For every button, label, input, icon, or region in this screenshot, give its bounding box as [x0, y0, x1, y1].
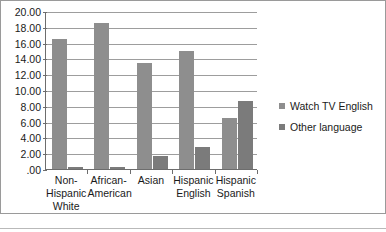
x-axis-tick — [257, 170, 258, 174]
x-axis-labels: Non- Hispanic WhiteAfrican- AmericanAsia… — [45, 174, 257, 214]
y-axis-tick-label: 12.00 — [15, 70, 41, 80]
bar-group — [88, 12, 130, 169]
bar-group — [131, 12, 173, 169]
bar — [179, 51, 194, 169]
x-axis-category-label: Asian — [130, 174, 172, 187]
bar — [110, 167, 125, 169]
legend-label: Watch TV English — [290, 101, 373, 112]
legend-item[interactable]: Watch TV English — [279, 100, 373, 112]
x-axis-category-label: Non- Hispanic White — [45, 174, 87, 213]
chart-screenshot: 20.0018.0016.0014.0012.0010.008.006.004.… — [0, 0, 386, 232]
bottom-divider — [0, 228, 386, 229]
y-axis-tick-label: 8.00 — [21, 102, 41, 112]
y-axis-tick-label: 16.00 — [15, 39, 41, 49]
y-axis-tick-label: 20.00 — [15, 7, 41, 17]
x-axis-tick — [130, 170, 131, 174]
legend-swatch-icon — [279, 103, 285, 109]
bar — [137, 63, 152, 169]
x-axis-category-label: Hispanic Spanish — [215, 174, 257, 200]
y-axis-tick-label: 18.00 — [15, 23, 41, 33]
x-axis-category-label: African- American — [87, 174, 129, 200]
legend-label: Other language — [290, 122, 362, 133]
y-axis-tick-label: 6.00 — [21, 118, 41, 128]
x-axis-tick — [215, 170, 216, 174]
legend-swatch-icon — [279, 124, 285, 130]
y-axis-tick — [43, 170, 47, 171]
bar — [52, 39, 67, 169]
y-axis-tick-label: 10.00 — [15, 86, 41, 96]
y-axis-labels: 20.0018.0016.0014.0012.0010.008.006.004.… — [0, 12, 41, 170]
plot-area — [45, 12, 257, 170]
x-axis-tick — [172, 170, 173, 174]
y-axis-tick-label: 4.00 — [21, 133, 41, 143]
chart-legend: Watch TV EnglishOther language — [279, 100, 373, 142]
y-axis-tick-label: .00 — [26, 165, 41, 175]
bar — [238, 101, 253, 169]
bar — [195, 147, 210, 169]
x-axis-tick — [87, 170, 88, 174]
bar-group — [216, 12, 258, 169]
bar-group — [173, 12, 215, 169]
y-axis-tick-label: 14.00 — [15, 54, 41, 64]
bar-group — [46, 12, 88, 169]
bar — [68, 167, 83, 169]
bar — [222, 118, 237, 169]
x-axis-category-label: Hispanic English — [172, 174, 214, 200]
bar — [153, 156, 168, 169]
bar — [94, 23, 109, 169]
y-axis-tick-label: 2.00 — [21, 149, 41, 159]
legend-item[interactable]: Other language — [279, 121, 373, 133]
